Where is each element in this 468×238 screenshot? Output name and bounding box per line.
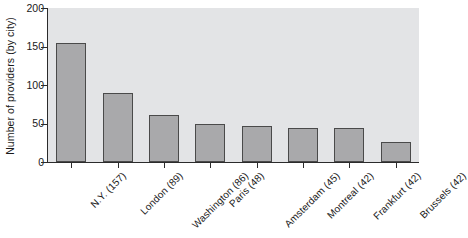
y-axis-tick-label: 50	[16, 118, 44, 129]
bar	[103, 93, 133, 162]
bar	[242, 126, 272, 162]
bar	[334, 128, 364, 162]
x-axis-tick-mark	[164, 163, 165, 168]
y-axis-tick-mark	[41, 85, 47, 86]
x-axis-category-label: Frankfurt (42)	[372, 170, 424, 222]
y-axis-tick-mark	[41, 124, 47, 125]
bar	[56, 43, 86, 162]
x-axis-tick-mark	[71, 163, 72, 168]
y-axis-tick-mark	[41, 47, 47, 48]
bar	[195, 124, 225, 162]
y-axis-tick-mark	[41, 8, 47, 9]
bar	[149, 115, 179, 162]
y-axis-tick-label: 150	[16, 41, 44, 52]
x-axis-tick-mark	[257, 163, 258, 168]
x-axis-category-label-text: London (89)	[138, 170, 185, 217]
y-axis-tick-label: 0	[16, 157, 44, 168]
y-axis-line	[47, 8, 48, 163]
x-axis-tick-mark	[210, 163, 211, 168]
bar	[381, 142, 411, 162]
y-axis-tick-label: 100	[16, 80, 44, 91]
y-axis-tick-labels: 050100150200	[13, 0, 44, 238]
x-axis-tick-mark	[349, 163, 350, 168]
x-axis-category-label-text: Frankfurt (42)	[372, 170, 424, 222]
bar	[288, 128, 318, 162]
y-axis-tick-label: 200	[16, 3, 44, 14]
plot-area	[48, 8, 419, 162]
x-axis-tick-mark	[118, 163, 119, 168]
x-axis-category-label-text: Brussels (42)	[417, 170, 467, 220]
x-axis-tick-mark	[303, 163, 304, 168]
x-axis-line	[47, 162, 419, 163]
y-axis-tick-mark	[41, 162, 47, 163]
x-axis-tick-mark	[396, 163, 397, 168]
x-axis-category-label-text: N.Y. (157)	[88, 170, 128, 210]
x-axis-category-label: London (89)	[138, 170, 185, 217]
x-axis-category-label: Brussels (42)	[417, 170, 467, 220]
x-axis-category-label: N.Y. (157)	[88, 170, 128, 210]
